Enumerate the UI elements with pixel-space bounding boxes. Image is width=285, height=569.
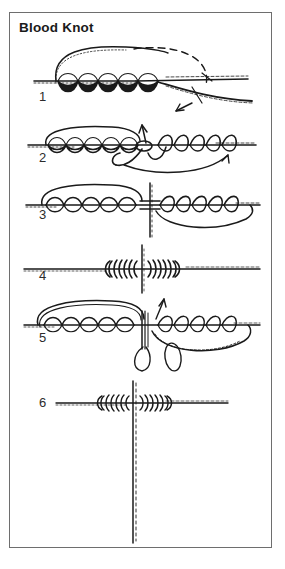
step-5-number: 5 bbox=[39, 330, 46, 345]
illustration-frame: Blood Knot bbox=[9, 12, 272, 548]
step-2-illustration bbox=[16, 121, 268, 181]
step-1-number: 1 bbox=[39, 89, 46, 104]
step-4-illustration bbox=[16, 241, 268, 297]
step-5-illustration bbox=[16, 297, 268, 373]
page-title: Blood Knot bbox=[19, 20, 94, 35]
step-4-number: 4 bbox=[39, 268, 46, 283]
step-3-number: 3 bbox=[39, 207, 46, 222]
step-2-number: 2 bbox=[39, 150, 46, 165]
step-6-illustration bbox=[16, 373, 268, 551]
step-3-illustration bbox=[16, 181, 268, 239]
step-6-number: 6 bbox=[39, 395, 46, 410]
step-1-illustration bbox=[16, 41, 268, 113]
